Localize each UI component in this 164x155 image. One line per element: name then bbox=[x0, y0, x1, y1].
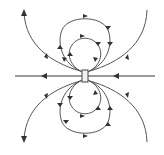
bar-magnet bbox=[82, 70, 88, 82]
field-diagram bbox=[0, 0, 164, 155]
arrow-right-axis-icon bbox=[113, 73, 119, 79]
bottom-middle-loop bbox=[57, 81, 113, 138]
arrow-left-axis-icon bbox=[41, 73, 47, 79]
field-lines-svg bbox=[0, 0, 164, 155]
top-middle-loop bbox=[57, 14, 113, 71]
